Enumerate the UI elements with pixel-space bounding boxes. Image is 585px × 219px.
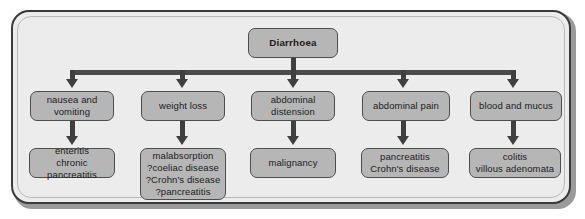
symptom-connector-2 bbox=[180, 121, 185, 137]
symptom-node-2: weight loss bbox=[141, 91, 225, 121]
diagnosis-label-4: pancreatitis Crohn's disease bbox=[370, 151, 439, 175]
symptom-node-4: abdominal pain bbox=[362, 91, 450, 121]
symptom-connector-4 bbox=[401, 121, 406, 137]
symptom-connector-3 bbox=[291, 121, 296, 137]
diagnosis-label-3: malignancy bbox=[268, 157, 317, 169]
symptom-label-3: abdominal distension bbox=[271, 94, 316, 118]
symptom-arrow-5 bbox=[507, 136, 519, 145]
branch-arrow-3 bbox=[287, 79, 299, 88]
diagnosis-node-4: pancreatitis Crohn's disease bbox=[361, 148, 449, 178]
root-node-diarrhoea: Diarrhoea bbox=[248, 28, 338, 58]
symptom-arrow-2 bbox=[176, 136, 188, 145]
diagnosis-label-5: colitis villous adenomata bbox=[476, 151, 554, 175]
symptom-label-4: abdominal pain bbox=[373, 100, 439, 112]
diagnosis-node-3: malignancy bbox=[250, 148, 336, 178]
diagram-canvas: Diarrhoea nausea and vomiting enteritis … bbox=[0, 0, 585, 219]
branch-arrow-5 bbox=[507, 79, 519, 88]
root-node-label: Diarrhoea bbox=[269, 37, 317, 49]
symptom-node-5: blood and mucus bbox=[470, 91, 562, 121]
symptom-node-1: nausea and vomiting bbox=[30, 91, 114, 121]
symptom-connector-5 bbox=[511, 121, 516, 137]
symptom-connector-1 bbox=[70, 121, 75, 137]
diagnosis-node-5: colitis villous adenomata bbox=[469, 148, 561, 178]
diagnosis-label-1: enteritis chronic pancreatitis bbox=[33, 145, 111, 181]
symptom-label-5: blood and mucus bbox=[479, 100, 553, 112]
symptom-node-3: abdominal distension bbox=[251, 91, 335, 121]
diagnosis-label-2: malabsorption ?coeliac disease ?Crohn's … bbox=[146, 150, 221, 198]
symptom-label-1: nausea and vomiting bbox=[47, 94, 98, 118]
diagnosis-node-1: enteritis chronic pancreatitis bbox=[29, 148, 115, 178]
symptom-arrow-3 bbox=[287, 136, 299, 145]
symptom-label-2: weight loss bbox=[159, 100, 207, 112]
branch-arrow-1 bbox=[66, 79, 78, 88]
symptom-arrow-1 bbox=[66, 136, 78, 145]
branch-arrow-2 bbox=[176, 79, 188, 88]
symptom-arrow-4 bbox=[397, 136, 409, 145]
branch-arrow-4 bbox=[397, 79, 409, 88]
diagnosis-node-2: malabsorption ?coeliac disease ?Crohn's … bbox=[140, 148, 226, 200]
